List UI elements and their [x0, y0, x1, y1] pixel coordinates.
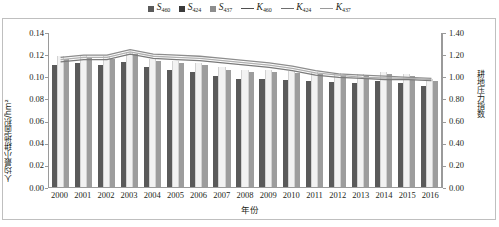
y-tickmark-right — [443, 122, 446, 123]
x-tick-2003: 2003 — [118, 190, 141, 202]
legend-item-k437: K437 — [320, 3, 351, 15]
x-tick-2013: 2013 — [349, 190, 372, 202]
y-axis-right-title: 耕地压力指数 — [474, 70, 485, 170]
y-tick-left-0.02: 0.02 — [18, 161, 44, 170]
chart-legend: S460 S424 S437 K460 K424 K437 — [0, 2, 499, 16]
legend-label-s437: S437 — [219, 3, 232, 15]
legend-label-k460: K460 — [257, 3, 272, 15]
y-tickmark-right — [443, 188, 446, 189]
x-tick-2002: 2002 — [94, 190, 117, 202]
legend-label-k437: K437 — [336, 3, 351, 15]
y-tick-left-0.06: 0.06 — [18, 117, 44, 126]
y-tick-left-0.10: 0.10 — [18, 73, 44, 82]
y-tickmark-right — [443, 144, 446, 145]
y-tick-right-1.40: 1.40 — [449, 29, 464, 38]
y-tickmark-right — [443, 55, 446, 56]
y-tickmark-right — [443, 33, 446, 34]
legend-label-s424: S424 — [188, 3, 201, 15]
x-tick-2012: 2012 — [326, 190, 349, 202]
x-tick-2005: 2005 — [164, 190, 187, 202]
legend-item-s437: S437 — [210, 3, 232, 15]
legend-label-k424: K424 — [296, 3, 311, 15]
legend-swatch-s460 — [148, 6, 154, 12]
y-tickmark-right — [443, 166, 446, 167]
line-series-overlay — [49, 33, 443, 188]
chart-figure: S460 S424 S437 K460 K424 K437 0.000.020.… — [0, 0, 499, 227]
y-tick-right-1.20: 1.20 — [449, 51, 464, 60]
legend-item-s460: S460 — [148, 3, 170, 15]
y-tick-left-0.14: 0.14 — [18, 29, 44, 38]
x-tick-2006: 2006 — [187, 190, 210, 202]
x-axis-title: 年份 — [0, 203, 499, 215]
y-tickmark-left — [45, 188, 48, 189]
y-tick-left-0.08: 0.08 — [18, 95, 44, 104]
x-tick-2010: 2010 — [280, 190, 303, 202]
y-tick-right-0.40: 0.40 — [449, 139, 464, 148]
x-tick-2011: 2011 — [303, 190, 326, 202]
legend-swatch-s437 — [210, 6, 216, 12]
legend-item-k460: K460 — [241, 3, 272, 15]
legend-item-s424: S424 — [179, 3, 201, 15]
x-tick-2004: 2004 — [141, 190, 164, 202]
legend-label-s460: S460 — [157, 3, 170, 15]
y-axis-left-title: 人均最小耕地面积/hm² — [3, 42, 14, 182]
y-tick-left-0.00: 0.00 — [18, 184, 44, 193]
y-tick-right-0.20: 0.20 — [449, 161, 464, 170]
legend-line-k424 — [281, 8, 294, 9]
legend-swatch-s424 — [179, 6, 185, 12]
x-tick-2000: 2000 — [48, 190, 71, 202]
y-tickmark-right — [443, 99, 446, 100]
legend-line-k460 — [241, 8, 254, 9]
y-tick-right-0.00: 0.00 — [449, 184, 464, 193]
x-tick-2008: 2008 — [233, 190, 256, 202]
y-tick-left-0.12: 0.12 — [18, 51, 44, 60]
x-tick-2015: 2015 — [396, 190, 419, 202]
x-tick-2001: 2001 — [71, 190, 94, 202]
x-axis-ticks: 2000200120022003200420052006200720082009… — [48, 190, 442, 202]
y-tick-right-0.60: 0.60 — [449, 117, 464, 126]
y-tickmark-right — [443, 77, 446, 78]
x-tick-2016: 2016 — [419, 190, 442, 202]
y-tick-left-0.04: 0.04 — [18, 139, 44, 148]
y-tick-right-0.80: 0.80 — [449, 95, 464, 104]
x-tick-2007: 2007 — [210, 190, 233, 202]
x-tick-2009: 2009 — [257, 190, 280, 202]
legend-line-k437 — [320, 8, 333, 9]
plot-area — [48, 33, 442, 188]
line-K424 — [61, 50, 432, 79]
line-K460 — [61, 54, 432, 81]
legend-item-k424: K424 — [281, 3, 312, 15]
y-tick-right-1.00: 1.00 — [449, 73, 464, 82]
x-tick-2014: 2014 — [372, 190, 395, 202]
